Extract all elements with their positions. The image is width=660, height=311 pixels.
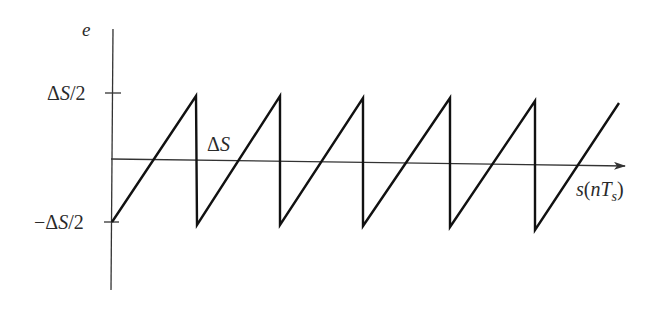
tick-top-label: ΔS/2 bbox=[47, 82, 85, 104]
x-axis bbox=[111, 159, 625, 166]
sawtooth-diagram: e ΔS/2 −ΔS/2 ΔS s(nTs) bbox=[0, 0, 660, 311]
tick-bottom-label: −ΔS/2 bbox=[34, 211, 84, 233]
step-label: ΔS bbox=[207, 133, 230, 155]
y-axis-label: e bbox=[82, 19, 90, 40]
x-axis-label: s(nTs) bbox=[576, 178, 624, 204]
